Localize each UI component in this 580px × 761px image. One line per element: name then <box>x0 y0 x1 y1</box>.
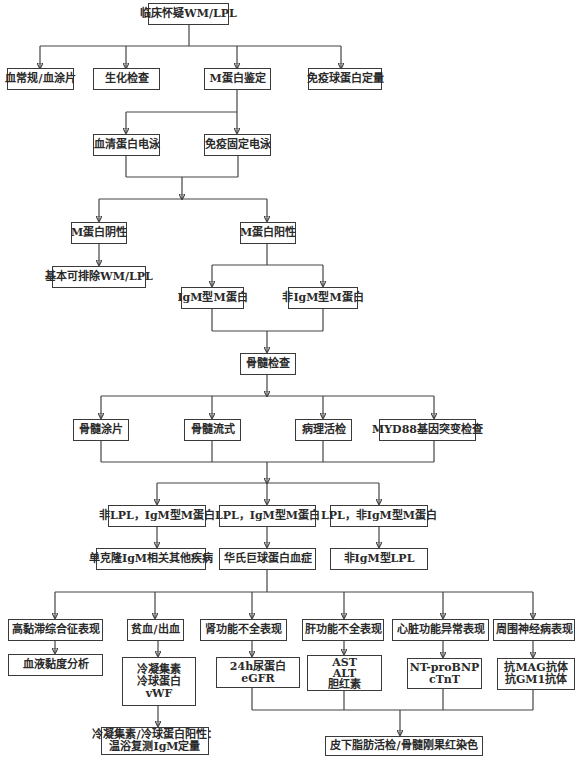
node-label: M蛋白鉴定 <box>209 73 265 85</box>
test-immunofixation: 免疫固定电泳 <box>204 134 271 156</box>
m-protein-negative: M蛋白阴性 <box>71 222 127 244</box>
node-label: 周围神经病表现 <box>496 624 573 636</box>
test-renal: 24h尿蛋白 eGFR <box>216 657 300 688</box>
initial-test-biochem: 生化检查 <box>93 68 160 90</box>
bm-myd88: MYD88基因突变检查 <box>379 419 476 441</box>
manifestation-hepatic: 肝功能不全表现 <box>302 619 384 641</box>
final-test: 皮下脂肪活检/骨髓刚果红染色 <box>325 736 483 756</box>
diagnosis-other-igm: 单克隆IgM相关其他疾病 <box>96 548 206 570</box>
m-protein-positive: M蛋白阳性 <box>240 222 296 244</box>
node-label: 骨髓涂片 <box>79 424 123 436</box>
node-label: 免疫球蛋白定量 <box>307 73 384 85</box>
initial-test-blood-routine: 血常规/血涂片 <box>7 68 74 90</box>
test-serum-electrophoresis: 血清蛋白电泳 <box>93 134 160 156</box>
node-label: 非IgM型LPL <box>344 553 415 565</box>
node-label: 贫血/出血 <box>131 624 179 636</box>
node-label: 肾功能不全表现 <box>205 624 282 636</box>
negative-conclusion: 基本可排除WM/LPL <box>52 266 146 288</box>
node-label: 肝功能不全表现 <box>305 624 382 636</box>
node-label: AST <box>332 657 357 668</box>
test-hepatic: AST ALT 胆红素 <box>307 655 382 691</box>
node-label: 24h尿蛋白 <box>230 661 286 673</box>
node-label: 血液黏度分析 <box>23 659 89 671</box>
node-label: 骨髓检查 <box>246 358 290 370</box>
node-label: cTnT <box>429 674 460 686</box>
test-blood-viscosity: 血液黏度分析 <box>8 654 103 676</box>
node-label: MYD88基因突变检查 <box>372 424 483 436</box>
node-label: LPL，非IgM型M蛋白 <box>321 510 437 522</box>
node-label: ALT <box>333 668 357 679</box>
node-label: LPL，IgM型M蛋白 <box>215 510 320 522</box>
diagnosis-non-igm-lpl: 非IgM型LPL <box>330 548 428 570</box>
category-lpl-igm: LPL，IgM型M蛋白 <box>219 505 316 527</box>
node-label: 单克隆IgM相关其他疾病 <box>89 553 213 565</box>
category-non-lpl-igm: 非LPL，IgM型M蛋白 <box>108 505 206 527</box>
node-label: 冷球蛋白 <box>137 676 181 688</box>
node-label: 基本可排除WM/LPL <box>45 271 152 283</box>
cold-followup: 冷凝集素/冷球蛋白阳性： 温浴复测IgM定量 <box>101 727 209 755</box>
node-label: M蛋白阳性 <box>240 227 296 239</box>
node-label: 温浴复测IgM定量 <box>109 741 200 753</box>
test-cold-agglutinin: 冷凝集素 冷球蛋白 vWF <box>122 657 196 706</box>
igm-m-protein: IgM型M蛋白 <box>181 287 244 309</box>
node-label: 胆红素 <box>328 679 361 690</box>
connector-lines <box>0 0 580 761</box>
manifestation-cardiac: 心脏功能异常表现 <box>392 619 489 641</box>
node-label: 非IgM型M蛋白 <box>282 292 363 304</box>
node-label: NT-proBNP <box>410 662 479 674</box>
initial-test-m-protein: M蛋白鉴定 <box>204 68 271 90</box>
diagnosis-wm: 华氏巨球蛋白血症 <box>219 548 316 570</box>
node-label: 高黏滞综合征表现 <box>12 624 100 636</box>
test-cardiac: NT-proBNP cTnT <box>407 658 482 689</box>
manifestation-hyperviscosity: 高黏滞综合征表现 <box>8 619 103 641</box>
node-label: eGFR <box>241 673 274 685</box>
bm-biopsy: 病理活检 <box>295 419 352 441</box>
node-label: 生化检查 <box>105 73 149 85</box>
node-label: 骨髓流式 <box>191 424 235 436</box>
node-label: 华氏巨球蛋白血症 <box>224 553 312 565</box>
bone-marrow-exam: 骨髓检查 <box>240 353 296 375</box>
manifestation-renal: 肾功能不全表现 <box>200 619 287 641</box>
bm-smear: 骨髓涂片 <box>73 419 129 441</box>
node-label: vWF <box>146 688 173 700</box>
non-igm-m-protein: 非IgM型M蛋白 <box>288 287 358 309</box>
node-label: M蛋白阴性 <box>71 227 127 239</box>
node-label: 非LPL，IgM型M蛋白 <box>99 510 215 522</box>
start-node: 临床怀疑WM/LPL <box>148 3 229 25</box>
node-label: 皮下脂肪活检/骨髓刚果红染色 <box>330 740 477 752</box>
test-neuropathy: 抗MAG抗体 抗GM1抗体 <box>497 658 575 690</box>
bm-flow: 骨髓流式 <box>184 419 241 441</box>
initial-test-immunoglobulin: 免疫球蛋白定量 <box>308 68 382 90</box>
node-label: IgM型M蛋白 <box>177 292 247 304</box>
manifestation-neuropathy: 周围神经病表现 <box>493 619 575 641</box>
node-label: 抗GM1抗体 <box>505 674 567 686</box>
category-lpl-non-igm: LPL，非IgM型M蛋白 <box>330 505 428 527</box>
node-label: 免疫固定电泳 <box>205 139 271 151</box>
node-label: 血常规/血涂片 <box>5 73 75 85</box>
start-node-label: 临床怀疑WM/LPL <box>140 8 236 20</box>
node-label: 心脏功能异常表现 <box>397 624 485 636</box>
node-label: 血清蛋白电泳 <box>94 139 160 151</box>
node-label: 病理活检 <box>302 424 346 436</box>
manifestation-anemia: 贫血/出血 <box>127 619 184 641</box>
node-label: 冷凝集素 <box>137 664 181 676</box>
